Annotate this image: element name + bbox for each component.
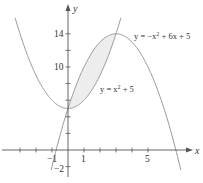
x-axis-arrow-icon: [186, 148, 193, 153]
label-lower-parabola: y = −x2 + 6x + 5: [134, 31, 190, 41]
y-axis: [66, 4, 71, 177]
y-tick-label-14: 14: [54, 29, 64, 39]
shaded-region: [68, 34, 116, 109]
x-axis-label: x: [194, 145, 200, 156]
label-upper-parabola: y = x2 + 5: [100, 84, 134, 94]
function-graph: x y −1 1 5 14 10 −2 y = −x2 + 6x + 5 y =…: [0, 0, 203, 183]
y-axis-label: y: [72, 3, 78, 14]
y-tick-label-neg2: −2: [54, 164, 64, 174]
y-axis-arrow-icon: [66, 4, 71, 11]
x-tick-label-1: 1: [81, 154, 86, 164]
x-axis: [2, 148, 193, 153]
x-tick-label-5: 5: [145, 154, 150, 164]
x-tick-label-neg1: −1: [47, 154, 57, 164]
y-tick-label-10: 10: [54, 62, 64, 72]
